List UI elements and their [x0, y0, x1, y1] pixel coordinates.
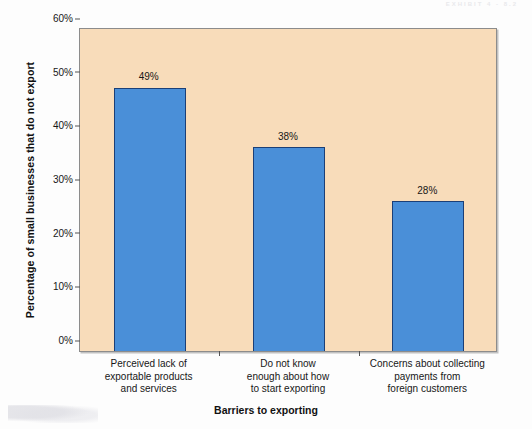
bar-value-label: 28%: [387, 185, 467, 196]
x-axis-category-line: Do not know: [218, 358, 357, 371]
y-axis-tick-label: 50%: [53, 66, 80, 77]
x-axis-tick: [219, 351, 220, 356]
x-axis-category-line: foreign customers: [358, 383, 497, 396]
y-axis-tick-label: 30%: [53, 174, 80, 185]
y-axis-tick-label: 0%: [59, 335, 80, 346]
y-axis-tick-label: 40%: [53, 120, 80, 131]
x-axis-category-label: Perceived lack ofexportable productsand …: [79, 358, 218, 396]
bar: [392, 201, 464, 351]
scan-header-artifact: EXHIBIT 4 - 8.2: [446, 1, 518, 7]
bar: [114, 88, 186, 351]
x-axis-title: Barriers to exporting: [0, 404, 532, 416]
bar-value-label: 38%: [248, 131, 328, 142]
x-axis-category-line: Perceived lack of: [79, 358, 218, 371]
y-axis-tick-label: 60%: [53, 13, 80, 24]
x-axis-tick: [359, 351, 360, 356]
y-axis-title: Percentage of small businesses that do n…: [22, 28, 38, 352]
y-axis-tick-label: 20%: [53, 227, 80, 238]
x-axis-category-line: Concerns about collecting: [358, 358, 497, 371]
x-axis-category-line: payments from: [358, 371, 497, 384]
x-axis-category-line: exportable products: [79, 371, 218, 384]
y-axis-tick-label: 10%: [53, 281, 80, 292]
bar-value-label: 49%: [109, 71, 189, 82]
chart-page: EXHIBIT 4 - 8.2 Percentage of small busi…: [0, 0, 532, 429]
x-axis-category-line: enough about how: [218, 371, 357, 384]
bar: [253, 147, 325, 351]
x-axis-category-line: and services: [79, 383, 218, 396]
y-axis-title-text: Percentage of small businesses that do n…: [24, 62, 36, 318]
x-axis-category-label: Concerns about collectingpayments fromfo…: [358, 358, 497, 396]
x-axis-category-line: to start exporting: [218, 383, 357, 396]
x-axis-category-label: Do not knowenough about howto start expo…: [218, 358, 357, 396]
